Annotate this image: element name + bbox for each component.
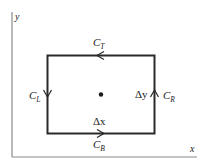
label-c-left: CL: [29, 89, 41, 104]
x-axis-label: x: [189, 143, 195, 154]
label-delta-y: Δy: [135, 88, 148, 100]
label-delta-x: Δx: [93, 115, 106, 127]
label-c-right: CR: [163, 89, 175, 104]
y-axis-label: y: [14, 11, 20, 22]
label-c-bottom: CB: [93, 138, 105, 153]
center-point-dot: [99, 92, 103, 96]
label-c-top: CT: [93, 36, 105, 51]
contour-diagram: y x CT CL Δy CR Δx CB: [0, 0, 206, 166]
